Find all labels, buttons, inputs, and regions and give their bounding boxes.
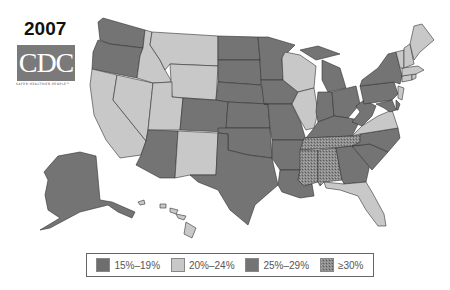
legend-swatch: [96, 258, 110, 272]
state-ny[interactable]: [360, 52, 402, 86]
legend-label: ≥30%: [338, 260, 364, 271]
state-hi-1[interactable]: [138, 200, 145, 205]
state-nj[interactable]: [398, 86, 404, 100]
state-ne[interactable]: [216, 82, 268, 104]
state-wy[interactable]: [170, 64, 218, 100]
map-legend: 15%–19% 20%–24% 25%–29% ≥30%: [86, 253, 374, 277]
state-hi-4[interactable]: [176, 214, 186, 220]
state-ar[interactable]: [272, 140, 304, 170]
state-me[interactable]: [410, 24, 434, 60]
state-ks[interactable]: [226, 102, 270, 128]
legend-label: 20%–24%: [189, 260, 235, 271]
legend-item-20-24: 20%–24%: [171, 258, 235, 272]
state-ri[interactable]: [412, 74, 416, 80]
legend-item-15-19: 15%–19%: [96, 258, 160, 272]
legend-label: 15%–19%: [114, 260, 160, 271]
state-nd[interactable]: [218, 36, 260, 60]
state-ak[interactable]: [40, 152, 135, 230]
legend-swatch: [245, 258, 259, 272]
us-map: [0, 0, 450, 290]
state-mi-up[interactable]: [300, 46, 340, 60]
legend-item-30-plus: ≥30%: [320, 258, 364, 272]
state-oh[interactable]: [332, 86, 360, 118]
state-hi-3[interactable]: [170, 208, 178, 214]
state-hi-2[interactable]: [160, 204, 166, 208]
state-de[interactable]: [396, 100, 400, 110]
state-mi[interactable]: [322, 60, 346, 92]
state-hi-5[interactable]: [184, 222, 196, 238]
state-sd[interactable]: [218, 60, 261, 85]
state-co[interactable]: [180, 98, 228, 132]
legend-label: 25%–29%: [263, 260, 309, 271]
legend-swatch: [171, 258, 185, 272]
state-fl[interactable]: [324, 182, 386, 226]
state-ms[interactable]: [298, 150, 318, 186]
legend-swatch: [320, 258, 334, 272]
legend-item-25-29: 25%–29%: [245, 258, 309, 272]
state-nm[interactable]: [175, 131, 218, 178]
